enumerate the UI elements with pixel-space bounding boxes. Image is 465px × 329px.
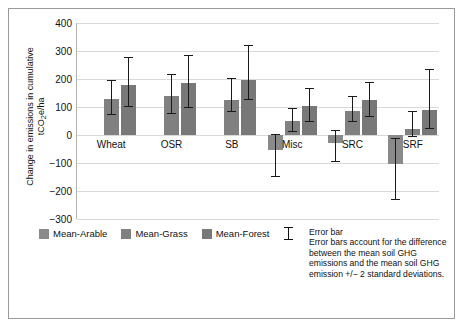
y-axis-label-line1: Change in emissions in cumulative [25,47,35,186]
y-tick-label--200: −200 [49,186,72,197]
plot-area: 4003002001000−100−200−300WheatOSRSBMiscS… [77,23,439,219]
y-tick-label-400: 400 [55,18,72,29]
legend-label-mean-forest: Mean-Forest [216,228,270,239]
error-bar-sb-mean-grass [224,78,239,112]
x-tick-label-srf: SRF [403,139,423,150]
y-tick-label-300: 300 [55,46,72,57]
error-bar-icon [284,227,293,240]
gridline--300: −300 [77,219,439,220]
x-tick-label-src: SRC [342,139,363,150]
gridline--100: −100 [77,163,439,164]
error-bar-osr-mean-grass [164,74,179,114]
chart-legend: Mean-Arable Mean-Grass Mean-Forest [39,227,304,240]
legend-item-mean-arable[interactable]: Mean-Arable [39,228,107,239]
legend-item-mean-forest[interactable]: Mean-Forest [202,228,270,239]
chart-figure: Change in emissions in cumulative tCO2e/… [8,8,455,319]
gridline--200: −200 [77,191,439,192]
error-bar-sb-mean-forest [241,45,256,100]
y-axis-label: Change in emissions in cumulative tCO2e/… [25,36,50,196]
error-bar-misc-mean-arable [268,134,283,177]
gridline-400: 400 [77,23,439,24]
legend-label-mean-grass: Mean-Grass [135,228,187,239]
plot-wrapper: Change in emissions in cumulative tCO2e/… [9,9,456,239]
y-tick-label-200: 200 [55,74,72,85]
legend-swatch-mean-arable [39,229,49,239]
legend-item-mean-grass[interactable]: Mean-Grass [121,228,187,239]
error-bar-note-heading: Error bar [309,227,455,237]
gridline-0: 0 [77,135,439,136]
legend-swatch-mean-forest [202,229,212,239]
y-axis-label-line2: tCO2e/ha [36,36,50,196]
error-bar-note: Error bar Error bars account for the dif… [309,227,455,279]
error-bar-misc-mean-forest [302,88,317,122]
error-bar-wheat-mean-grass [104,80,119,114]
y-tick-label--100: −100 [49,158,72,169]
error-bar-srf-mean-forest [422,69,437,129]
error-bar-srf-mean-arable [388,138,403,200]
y-axis-label-unit-sub: 2 [39,115,48,119]
error-bar-src-mean-arable [328,130,343,162]
x-tick-label-sb: SB [225,139,238,150]
error-bar-note-body: Error bars account for the difference be… [309,237,455,279]
y-axis-line [76,23,77,219]
y-axis-label-unit-pre: tCO [36,119,46,135]
error-bar-srf-mean-grass [405,111,420,137]
y-axis-label-unit-post: e/ha [36,98,46,116]
error-bar-src-mean-forest [362,82,377,117]
error-bar-misc-mean-grass [285,108,300,132]
y-tick-label-0: 0 [66,130,72,141]
x-tick-label-wheat: Wheat [97,139,126,150]
legend-item-error-bar [284,227,298,240]
y-tick-label--300: −300 [49,214,72,225]
error-bar-src-mean-grass [345,96,360,123]
legend-label-mean-arable: Mean-Arable [53,228,107,239]
legend-swatch-mean-grass [121,229,131,239]
error-bar-wheat-mean-forest [121,57,136,107]
gridline-300: 300 [77,51,439,52]
y-tick-label-100: 100 [55,102,72,113]
error-bar-osr-mean-forest [181,55,196,107]
x-tick-label-misc: Misc [282,139,303,150]
x-tick-label-osr: OSR [161,139,183,150]
